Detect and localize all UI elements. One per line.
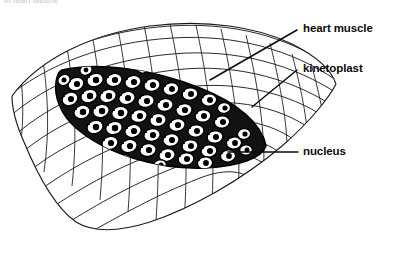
amastigote — [237, 128, 251, 140]
label-kinetoplast: kinetoplast — [303, 62, 363, 74]
label-nucleus: nucleus — [303, 145, 346, 157]
amastigote — [239, 144, 253, 156]
leader-kinetoplast — [252, 70, 297, 107]
label-heart-muscle: heart muscle — [303, 22, 373, 34]
amastigote — [217, 102, 231, 114]
muscle-pseudocyst-illustration — [0, 0, 396, 264]
